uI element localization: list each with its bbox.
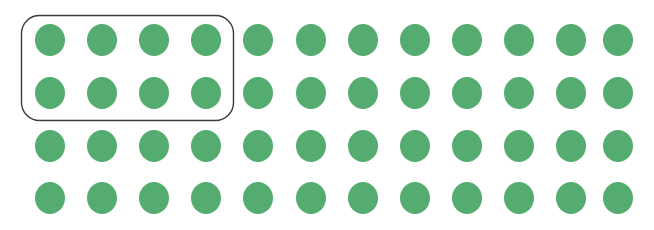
counter-dot [87, 130, 117, 162]
counter-dot [400, 24, 430, 56]
counter-dot [504, 24, 534, 56]
counter-dot [603, 182, 633, 214]
counter-dot [191, 77, 221, 109]
counter-dot [296, 130, 326, 162]
counter-dot [400, 130, 430, 162]
counter-dot [348, 77, 378, 109]
counter-dot [87, 24, 117, 56]
counter-dot [35, 182, 65, 214]
counter-dot [139, 77, 169, 109]
counter-dot [603, 77, 633, 109]
counter-dot [603, 24, 633, 56]
counter-dot [400, 77, 430, 109]
counter-dot [191, 130, 221, 162]
counter-dot [556, 130, 586, 162]
counter-dot [452, 130, 482, 162]
counter-dot [452, 77, 482, 109]
counter-dot [296, 24, 326, 56]
counter-dot [35, 24, 65, 56]
counter-dot [452, 182, 482, 214]
counter-dot [556, 24, 586, 56]
counter-dot [243, 77, 273, 109]
counter-dot [87, 182, 117, 214]
counter-dot [400, 182, 430, 214]
counter-dot [243, 24, 273, 56]
counter-dot [504, 182, 534, 214]
counter-dot [191, 182, 221, 214]
counter-dot [191, 24, 221, 56]
counter-dot [348, 182, 378, 214]
counter-dot [139, 24, 169, 56]
counter-dot [452, 24, 482, 56]
counter-dot [348, 130, 378, 162]
counter-dot [504, 77, 534, 109]
counter-dot [556, 182, 586, 214]
counter-dot [556, 77, 586, 109]
counter-dot [296, 77, 326, 109]
counters-array-canvas [0, 0, 654, 230]
counter-dot [504, 130, 534, 162]
counter-dot [35, 77, 65, 109]
counter-dot [348, 24, 378, 56]
counter-dot [87, 77, 117, 109]
counter-dot [243, 182, 273, 214]
counter-dot [35, 130, 65, 162]
counter-dot [243, 130, 273, 162]
counter-dot [139, 130, 169, 162]
array-model-diagram: Array of green counters with one group c… [0, 0, 654, 230]
counter-dot [603, 130, 633, 162]
counter-dot [139, 182, 169, 214]
counter-dot [296, 182, 326, 214]
